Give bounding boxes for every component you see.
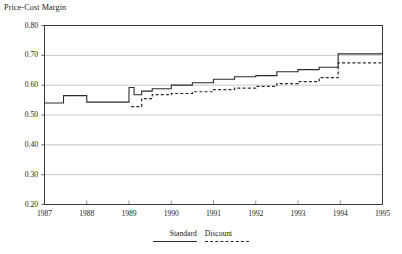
x-tick-label: 1989 <box>109 209 149 218</box>
price-cost-margin-figure: Price-Cost Margin 0.800.700.600.500.400.… <box>0 0 402 254</box>
y-tick-label: 0.60 <box>12 80 38 89</box>
gridlines <box>45 55 383 174</box>
x-tick-label: 1993 <box>278 209 318 218</box>
x-tick-label: 1992 <box>236 209 276 218</box>
legend-key-row <box>153 241 249 242</box>
y-tick-label: 0.80 <box>12 21 38 30</box>
y-tick-label: 0.70 <box>12 50 38 59</box>
x-tick-label: 1995 <box>363 209 402 218</box>
y-tick-label: 0.50 <box>12 110 38 119</box>
y-tick-label: 0.20 <box>12 200 38 209</box>
x-tick-label: 1991 <box>194 209 234 218</box>
series-line-standard <box>45 54 383 103</box>
x-tick-label: 1988 <box>67 209 107 218</box>
legend-key-standard <box>153 241 197 242</box>
chart-legend: StandardDiscount <box>0 228 402 246</box>
legend-label-discount: Discount <box>205 229 232 238</box>
data-series-layer <box>45 54 383 107</box>
x-tick-label: 1987 <box>25 209 65 218</box>
y-tick-label: 0.40 <box>12 140 38 149</box>
y-tick-label: 0.30 <box>12 170 38 179</box>
legend-key-discount <box>205 241 249 242</box>
x-tick-label: 1994 <box>320 209 360 218</box>
x-tick-label: 1990 <box>151 209 191 218</box>
legend-label-row: StandardDiscount <box>153 229 249 238</box>
series-line-discount <box>131 63 382 107</box>
legend-label-standard: Standard <box>170 229 197 238</box>
